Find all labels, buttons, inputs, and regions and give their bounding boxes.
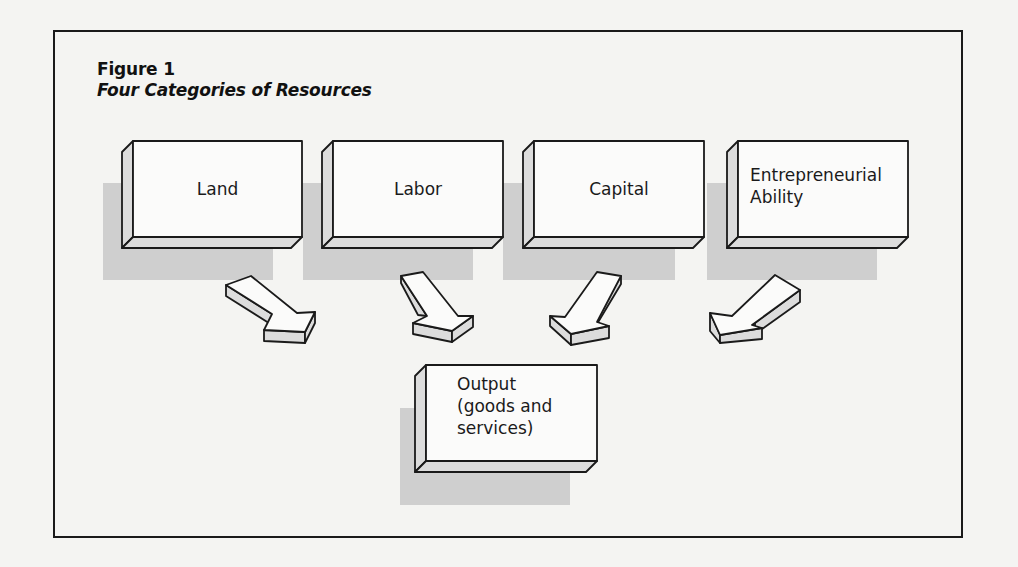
entrepreneurial-line2: Ability xyxy=(750,186,803,208)
output-line3: services) xyxy=(457,417,533,439)
arrow-land-to-output xyxy=(226,276,315,343)
resource-label-entrepreneurial: Entrepreneurial Ability xyxy=(750,164,910,208)
output-label: Output (goods and services) xyxy=(457,373,597,439)
arrow-capital-to-output xyxy=(550,272,621,345)
output-line2: (goods and xyxy=(457,395,552,417)
resource-label-labor: Labor xyxy=(333,141,503,237)
entrepreneurial-line1: Entrepreneurial xyxy=(750,164,882,186)
arrow-entrepreneurial-to-output xyxy=(710,275,800,343)
diagram-graphics xyxy=(0,0,1018,567)
resource-label-capital: Capital xyxy=(534,141,704,237)
resource-label-land: Land xyxy=(133,141,302,237)
arrow-labor-to-output xyxy=(401,272,473,342)
output-line1: Output xyxy=(457,373,516,395)
